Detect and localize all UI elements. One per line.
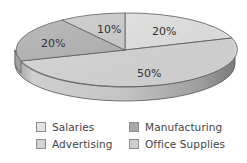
- label-salaries: 20%: [152, 25, 176, 38]
- label-office-supplies: 10%: [97, 23, 121, 36]
- legend-label: Salaries: [52, 121, 94, 133]
- pie-chart: 20% 10% 20% 50%: [0, 0, 247, 120]
- swatch-advertising: [36, 139, 46, 149]
- swatch-salaries: [36, 122, 46, 132]
- legend-label: Advertising: [52, 138, 113, 150]
- legend-label: Office Supplies: [145, 138, 225, 150]
- legend-item-manufacturing: Manufacturing: [129, 120, 239, 134]
- legend-item-office-supplies: Office Supplies: [129, 137, 239, 151]
- legend-item-salaries: Salaries: [36, 120, 129, 134]
- legend-item-advertising: Advertising: [36, 137, 129, 151]
- swatch-office-supplies: [129, 139, 139, 149]
- chart-legend: Salaries Manufacturing Advertising Offic…: [36, 120, 236, 151]
- label-advertising: 50%: [137, 67, 161, 80]
- label-manufacturing: 20%: [41, 37, 65, 50]
- legend-label: Manufacturing: [145, 121, 222, 133]
- swatch-manufacturing: [129, 122, 139, 132]
